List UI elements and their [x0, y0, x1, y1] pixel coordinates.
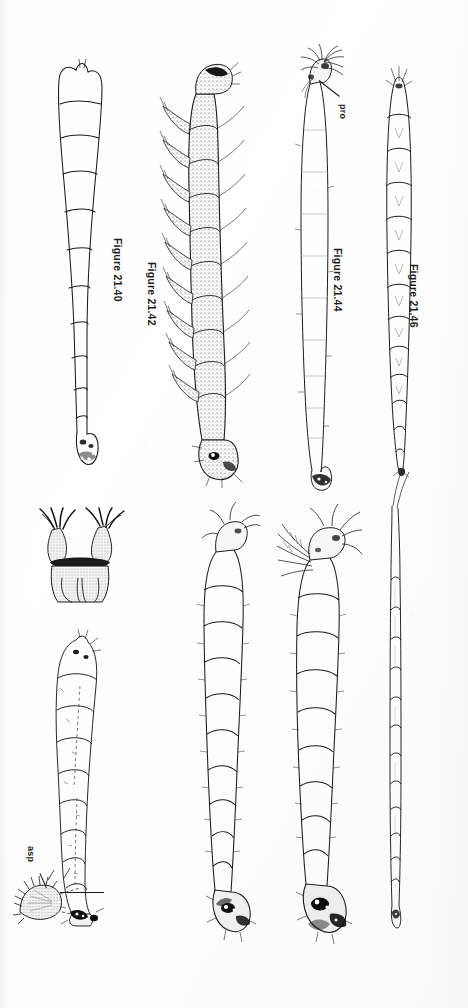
- figure-21-43: pro Figure 21.43: [272, 504, 362, 934]
- figure-21-39: sp. pl. Figure 21.39: [26, 508, 134, 604]
- figure-21-40-caption: Figure 21.40: [112, 238, 124, 302]
- figure-21-42-caption: Figure 21.42: [146, 262, 158, 326]
- figure-21-45-drawing: [378, 506, 418, 940]
- figure-21-46: Figure 21.46: [376, 56, 426, 476]
- figure-21-42: Figure 21.42: [160, 48, 256, 478]
- figure-21-41: Figure 21.41: [186, 506, 260, 934]
- figure-21-44-caption: Figure 21.44: [332, 248, 344, 312]
- figure-21-38-asp-inset: [8, 872, 82, 936]
- figure-21-44: pro Figure 21.44: [286, 46, 348, 486]
- figure-21-42-drawing: [160, 48, 256, 478]
- figure-21-40-drawing: [46, 42, 118, 472]
- figure-21-45: 1 mm Figure 21.45: [378, 506, 418, 940]
- figure-21-46-caption: Figure 21.46: [408, 264, 420, 328]
- figure-21-38-label-asp: asp: [26, 846, 36, 862]
- figure-21-43-drawing: [272, 504, 362, 934]
- figure-21-44-label-pro: pro: [338, 104, 348, 119]
- figure-21-41-drawing: [186, 506, 260, 934]
- figure-plate: Figure 21.40: [0, 0, 468, 1008]
- figure-21-39-drawing: [26, 508, 134, 604]
- figure-21-40: Figure 21.40: [46, 42, 118, 472]
- asp-pointer-line: [60, 892, 104, 893]
- asp-inset-drawing: [8, 872, 82, 936]
